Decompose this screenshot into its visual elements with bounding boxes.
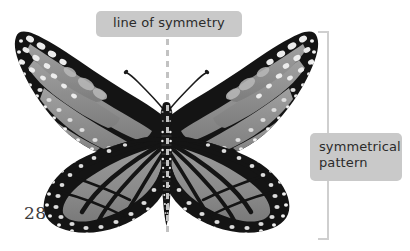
bracket-cap-bottom [318,238,329,240]
line-of-symmetry [166,28,169,233]
bracket-cap-top [318,31,329,33]
worksheet-page: line of symmetry symmetrical pattern 28 [0,0,410,251]
right-hindwing [163,137,289,236]
page-number: 28 [24,205,47,222]
left-hindwing [44,137,170,236]
butterfly-right-wings [163,32,318,236]
symmetrical-pattern-label: symmetrical pattern [310,133,402,181]
butterfly-illustration [0,0,410,251]
line-of-symmetry-label: line of symmetry [96,11,242,37]
